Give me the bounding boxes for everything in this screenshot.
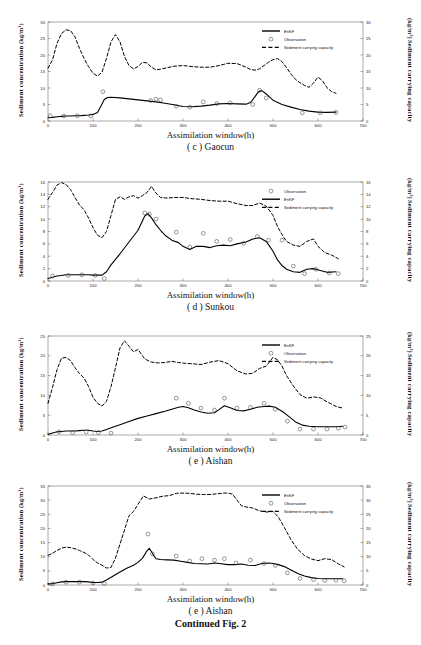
series-observation-points <box>48 88 338 118</box>
chart-legend: EnKFObservationSediment carrying capacit… <box>262 343 334 364</box>
y2-tick-label: 30 <box>366 20 371 25</box>
panel-caption: ( e ) Aishan <box>0 606 421 616</box>
y2-tick-label: 6 <box>366 241 369 246</box>
legend-label: EnKF <box>284 197 295 202</box>
x-tick-label: 600 <box>315 587 323 592</box>
y2-tick-label: 35 <box>366 484 371 489</box>
x-tick-label: 400 <box>225 123 233 128</box>
chart-legend: ObservationEnKFSediment carrying capacit… <box>262 189 334 210</box>
chart-panel-sunkou: Sediment concentration(kg/m³)(kg/m³)Sedi… <box>0 168 421 318</box>
y-tick-label: 10 <box>40 554 45 559</box>
y-tick-label: 5 <box>43 102 46 107</box>
x-tick-label: 500 <box>270 437 278 442</box>
y2-tick-label: 2 <box>366 266 369 271</box>
y-tick-label: 16 <box>40 180 45 185</box>
x-tick-label: 300 <box>180 123 188 128</box>
x-tick-label: 0 <box>47 123 50 128</box>
legend-label: Sediment carrying capacity <box>284 45 334 50</box>
series-enkf-line <box>48 91 336 118</box>
y-tick-label: 0 <box>43 433 46 438</box>
y-tick-label: 25 <box>40 512 45 517</box>
legend-marker-observation <box>269 351 273 355</box>
panel-caption: ( c ) Gaocun <box>0 142 421 152</box>
chart-legend: EnKFObservationSediment carrying capacit… <box>262 493 334 514</box>
x-tick-label: 300 <box>180 587 188 592</box>
y-tick-label: 20 <box>40 526 45 531</box>
panel-caption: ( e ) Aishan <box>0 456 421 466</box>
legend-marker-observation <box>269 501 273 505</box>
y2-tick-label: 25 <box>366 334 371 339</box>
x-axis-title: Assimilation window(h) <box>0 290 421 300</box>
y-tick-label: 0 <box>43 279 46 284</box>
y-tick-label: 4 <box>43 254 46 259</box>
y2-tick-label: 10 <box>366 217 371 222</box>
x-tick-label: 0 <box>47 437 50 442</box>
legend-marker-observation <box>269 37 273 41</box>
panel-caption: ( d ) Sunkou <box>0 302 421 312</box>
series-observation-points <box>57 396 347 435</box>
y2-tick-label: 10 <box>366 393 371 398</box>
x-tick-label: 200 <box>135 437 143 442</box>
y-tick-label: 30 <box>40 20 45 25</box>
x-tick-label: 700 <box>360 123 368 128</box>
x-axis-title: Assimilation window(h) <box>0 444 421 454</box>
continued-figure-caption: Continued Fig. 2 <box>0 618 421 629</box>
y-tick-label: 15 <box>40 373 45 378</box>
legend-label: Observation <box>284 37 307 42</box>
chart-panel-gaocun: Sediment concentration(kg/m³)(kg/m³)Sedi… <box>0 8 421 158</box>
legend-label: Sediment carrying capacity <box>284 509 334 514</box>
x-tick-label: 600 <box>315 123 323 128</box>
y2-tick-label: 10 <box>366 86 371 91</box>
y2-tick-label: 15 <box>366 540 371 545</box>
y2-tick-label: 15 <box>366 373 371 378</box>
x-axis-title: Assimilation window(h) <box>0 594 421 604</box>
x-tick-label: 0 <box>47 587 50 592</box>
x-tick-label: 500 <box>270 587 278 592</box>
y-tick-label: 8 <box>43 229 46 234</box>
legend-marker-observation <box>269 189 273 193</box>
y2-tick-label: 25 <box>366 36 371 41</box>
y-tick-label: 6 <box>43 241 46 246</box>
y2-tick-label: 4 <box>366 254 369 259</box>
y-tick-label: 25 <box>40 36 45 41</box>
x-tick-label: 200 <box>135 587 143 592</box>
legend-label: EnKF <box>284 493 295 498</box>
chart-panel-aishan-2: Sediment concentration(kg/m³)(kg/m³)Sedi… <box>0 472 421 632</box>
y-tick-label: 15 <box>40 540 45 545</box>
y-tick-label: 0 <box>43 583 46 588</box>
y2-tick-label: 12 <box>366 204 371 209</box>
y-tick-label: 25 <box>40 334 45 339</box>
y-tick-label: 20 <box>40 353 45 358</box>
x-tick-label: 500 <box>270 283 278 288</box>
legend-label: Observation <box>284 189 307 194</box>
y-tick-label: 12 <box>40 204 45 209</box>
x-tick-label: 300 <box>180 437 188 442</box>
y2-tick-label: 10 <box>366 554 371 559</box>
y-tick-label: 35 <box>40 484 45 489</box>
legend-label: Sediment carrying capacity <box>284 205 334 210</box>
y2-tick-label: 5 <box>366 413 369 418</box>
y-tick-label: 15 <box>40 69 45 74</box>
y-tick-label: 5 <box>43 568 46 573</box>
x-tick-label: 400 <box>225 437 233 442</box>
x-tick-label: 100 <box>90 283 98 288</box>
y2-tick-label: 16 <box>366 180 371 185</box>
y2-tick-label: 14 <box>366 192 371 197</box>
legend-label: EnKF <box>284 29 295 34</box>
y-tick-label: 10 <box>40 393 45 398</box>
plot-area-aishan-2: 0510152025303505101520253035010020030040… <box>0 472 421 600</box>
y2-tick-label: 20 <box>366 353 371 358</box>
x-tick-label: 500 <box>270 123 278 128</box>
x-tick-label: 600 <box>315 437 323 442</box>
series-enkf-line <box>48 548 343 584</box>
x-tick-label: 100 <box>90 437 98 442</box>
y2-tick-label: 25 <box>366 512 371 517</box>
x-tick-label: 200 <box>135 283 143 288</box>
x-tick-label: 200 <box>135 123 143 128</box>
y2-tick-label: 15 <box>366 69 371 74</box>
y2-tick-label: 30 <box>366 498 371 503</box>
y2-tick-label: 20 <box>366 53 371 58</box>
x-tick-label: 700 <box>360 587 368 592</box>
legend-label: Observation <box>284 501 307 506</box>
x-tick-label: 700 <box>360 283 368 288</box>
